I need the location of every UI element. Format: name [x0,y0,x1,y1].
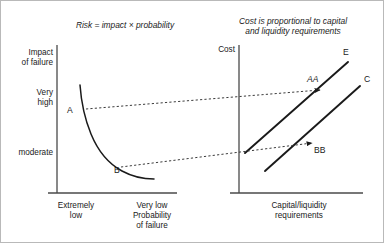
left-x-label-very-low-line2: Probability [121,211,183,220]
right-x-label-line1: Capital/liquidity [246,201,352,210]
right-chart-title-line1: Cost is proportional to capital [217,17,369,26]
point-label-b: B [114,166,120,176]
cost-line-c [265,86,360,171]
right-y-axis-title: Cost [189,45,235,54]
left-y-axis-title-line1: Impact [1,48,53,57]
point-label-aa: AA [307,75,318,85]
risk-cost-figure: Risk = impact × probability Impact of fa… [0,0,384,243]
connector-a-to-aa [86,90,320,109]
left-x-label-very-low-line1: Very low [121,201,183,210]
left-y-tick-moderate: moderate [1,148,53,157]
point-label-a: A [67,106,73,116]
left-x-label-extremely-low-line1: Extremely [46,201,106,210]
right-chart-title-line2: and liquidity requirements [217,27,369,36]
point-label-c: C [364,75,370,85]
left-y-tick-very-high-line2: high [1,98,53,107]
cost-line-e [245,62,348,153]
left-chart-title: Risk = impact × probability [55,21,195,30]
right-x-label-line2: requirements [246,211,352,220]
point-label-bb: BB [314,146,325,156]
left-x-label-very-low-line3: of failure [121,221,183,230]
left-x-label-extremely-low-line2: low [46,211,106,220]
left-chart-axes [48,45,177,193]
left-y-tick-very-high-line1: Very [1,88,53,97]
left-y-axis-title-line2: of failure [1,58,53,67]
point-label-e: E [343,48,349,58]
